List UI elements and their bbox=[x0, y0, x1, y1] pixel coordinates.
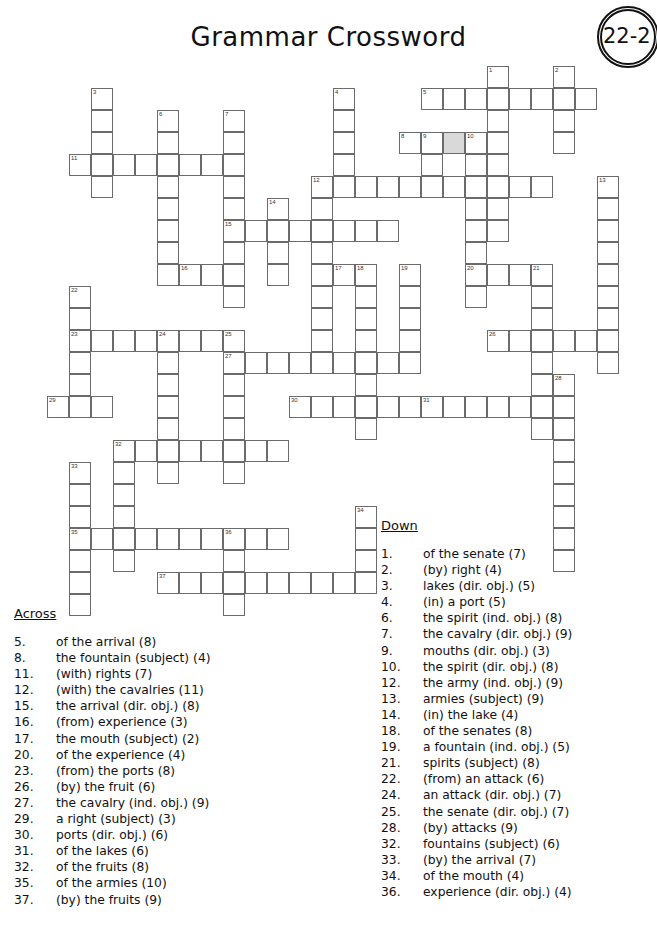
grid-cell[interactable]: 8 bbox=[399, 132, 421, 154]
grid-cell[interactable] bbox=[509, 330, 531, 352]
grid-cell[interactable] bbox=[531, 286, 553, 308]
grid-cell[interactable] bbox=[223, 132, 245, 154]
grid-cell[interactable] bbox=[135, 330, 157, 352]
down-clue[interactable]: 18.of the senates (8) bbox=[381, 723, 657, 739]
grid-cell[interactable] bbox=[157, 176, 179, 198]
grid-cell[interactable] bbox=[311, 352, 333, 374]
down-clue[interactable]: 34.of the mouth (4) bbox=[381, 868, 657, 884]
grid-cell[interactable] bbox=[157, 418, 179, 440]
grid-cell[interactable] bbox=[509, 396, 531, 418]
grid-cell[interactable] bbox=[289, 352, 311, 374]
grid-cell[interactable] bbox=[179, 572, 201, 594]
grid-cell[interactable] bbox=[355, 330, 377, 352]
grid-cell[interactable] bbox=[91, 330, 113, 352]
grid-cell[interactable] bbox=[311, 242, 333, 264]
grid-cell[interactable] bbox=[311, 572, 333, 594]
grid-cell[interactable] bbox=[333, 396, 355, 418]
grid-cell[interactable]: 27 bbox=[223, 352, 245, 374]
grid-cell[interactable] bbox=[69, 594, 91, 616]
down-clue[interactable]: 32.fountains (subject) (6) bbox=[381, 836, 657, 852]
grid-cell[interactable] bbox=[355, 352, 377, 374]
grid-cell[interactable] bbox=[597, 242, 619, 264]
grid-cell[interactable] bbox=[465, 198, 487, 220]
grid-cell[interactable] bbox=[465, 242, 487, 264]
grid-cell[interactable] bbox=[223, 374, 245, 396]
grid-cell[interactable]: 17 bbox=[333, 264, 355, 286]
grid-cell[interactable] bbox=[355, 220, 377, 242]
across-clue[interactable]: 35.of the armies (10) bbox=[14, 875, 354, 891]
grid-cell[interactable] bbox=[157, 264, 179, 286]
across-clue[interactable]: 5.of the arrival (8) bbox=[14, 634, 354, 650]
grid-cell[interactable] bbox=[113, 484, 135, 506]
grid-cell[interactable] bbox=[553, 132, 575, 154]
grid-cell[interactable] bbox=[113, 528, 135, 550]
grid-cell[interactable] bbox=[487, 198, 509, 220]
grid-cell[interactable] bbox=[399, 308, 421, 330]
grid-cell[interactable] bbox=[531, 88, 553, 110]
grid-cell[interactable] bbox=[91, 110, 113, 132]
grid-cell[interactable] bbox=[267, 528, 289, 550]
grid-cell[interactable] bbox=[333, 176, 355, 198]
grid-cell[interactable] bbox=[245, 220, 267, 242]
grid-cell[interactable] bbox=[597, 308, 619, 330]
grid-cell[interactable]: 36 bbox=[223, 528, 245, 550]
grid-cell[interactable] bbox=[157, 242, 179, 264]
grid-cell[interactable] bbox=[223, 242, 245, 264]
grid-cell[interactable] bbox=[201, 154, 223, 176]
across-clue[interactable]: 32.of the fruits (8) bbox=[14, 859, 354, 875]
down-clue[interactable]: 9.mouths (dir. obj.) (3) bbox=[381, 643, 657, 659]
grid-cell[interactable] bbox=[355, 286, 377, 308]
grid-cell[interactable] bbox=[553, 506, 575, 528]
grid-cell[interactable] bbox=[377, 352, 399, 374]
grid-cell[interactable] bbox=[355, 528, 377, 550]
grid-cell[interactable] bbox=[333, 110, 355, 132]
grid-cell[interactable] bbox=[597, 220, 619, 242]
down-clue[interactable]: 13.armies (subject) (9) bbox=[381, 691, 657, 707]
grid-cell[interactable] bbox=[201, 330, 223, 352]
grid-cell[interactable]: 37 bbox=[157, 572, 179, 594]
grid-cell[interactable]: 3 bbox=[91, 88, 113, 110]
grid-cell[interactable] bbox=[311, 308, 333, 330]
grid-cell[interactable] bbox=[443, 88, 465, 110]
across-clue[interactable]: 16.(from) experience (3) bbox=[14, 714, 354, 730]
grid-cell[interactable] bbox=[355, 176, 377, 198]
grid-cell[interactable] bbox=[179, 154, 201, 176]
grid-cell[interactable] bbox=[465, 154, 487, 176]
grid-cell[interactable] bbox=[333, 132, 355, 154]
grid-cell[interactable] bbox=[135, 528, 157, 550]
grid-cell[interactable] bbox=[575, 330, 597, 352]
grid-cell[interactable] bbox=[157, 352, 179, 374]
grid-cell[interactable] bbox=[245, 440, 267, 462]
grid-cell[interactable] bbox=[223, 418, 245, 440]
grid-cell[interactable] bbox=[311, 286, 333, 308]
grid-cell[interactable] bbox=[245, 572, 267, 594]
across-clue[interactable]: 17.the mouth (subject) (2) bbox=[14, 731, 354, 747]
across-clue[interactable]: 27.the cavalry (ind. obj.) (9) bbox=[14, 795, 354, 811]
across-clue[interactable]: 11.(with) rights (7) bbox=[14, 666, 354, 682]
grid-cell[interactable] bbox=[157, 396, 179, 418]
down-clue[interactable]: 19.a fountain (ind. obj.) (5) bbox=[381, 739, 657, 755]
grid-cell[interactable] bbox=[399, 396, 421, 418]
grid-cell[interactable] bbox=[443, 396, 465, 418]
grid-cell[interactable] bbox=[311, 264, 333, 286]
grid-cell[interactable] bbox=[289, 572, 311, 594]
grid-cell[interactable] bbox=[267, 242, 289, 264]
grid-cell[interactable] bbox=[487, 154, 509, 176]
grid-cell[interactable]: 30 bbox=[289, 396, 311, 418]
grid-cell[interactable] bbox=[421, 154, 443, 176]
grid-cell[interactable] bbox=[355, 396, 377, 418]
grid-cell[interactable] bbox=[113, 154, 135, 176]
grid-cell[interactable] bbox=[531, 308, 553, 330]
grid-cell[interactable]: 5 bbox=[421, 88, 443, 110]
grid-cell[interactable] bbox=[531, 330, 553, 352]
grid-cell[interactable] bbox=[487, 396, 509, 418]
down-clue[interactable]: 3.lakes (dir. obj.) (5) bbox=[381, 578, 657, 594]
across-clue[interactable]: 29.a right (subject) (3) bbox=[14, 811, 354, 827]
across-clue[interactable]: 8.the fountain (subject) (4) bbox=[14, 650, 354, 666]
down-clue[interactable]: 28.(by) attacks (9) bbox=[381, 820, 657, 836]
grid-cell[interactable] bbox=[487, 176, 509, 198]
grid-cell[interactable]: 25 bbox=[223, 330, 245, 352]
grid-cell[interactable] bbox=[487, 110, 509, 132]
across-clue[interactable]: 20.of the experience (4) bbox=[14, 747, 354, 763]
grid-cell[interactable] bbox=[509, 88, 531, 110]
